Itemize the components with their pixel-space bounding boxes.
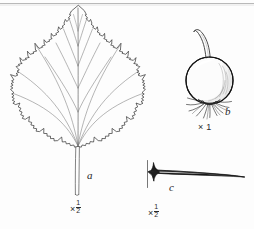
leaf-vein-left-5 bbox=[56, 43, 78, 88]
leaf-petiole-tip bbox=[75, 195, 78, 196]
leaf-vein-right-2 bbox=[78, 72, 138, 146]
leaf-vein-left-7 bbox=[70, 20, 79, 47]
scale-multiplier-b: × bbox=[198, 122, 204, 132]
leaf-vein-right-7 bbox=[78, 20, 87, 47]
leaf-vein-right-1 bbox=[78, 94, 143, 147]
leaf-vein-left-2 bbox=[18, 72, 78, 146]
scale-denominator-a: 2 bbox=[76, 208, 81, 215]
leaf-vein-right-4 bbox=[78, 57, 111, 112]
leaf-vein-left-1 bbox=[14, 94, 79, 147]
figure-leaf bbox=[11, 6, 146, 196]
figure-label-c: c bbox=[169, 182, 174, 193]
leaf-vein-right-8 bbox=[78, 15, 83, 32]
figure-label-b: b bbox=[225, 106, 231, 117]
scale-fraction-c: 12 bbox=[154, 204, 159, 218]
scale-label-b: × 1 bbox=[198, 123, 211, 132]
leaf-vein-right-6 bbox=[78, 29, 93, 66]
leaf-vein-left-6 bbox=[64, 29, 79, 66]
scale-label-a: ×12 bbox=[70, 200, 81, 214]
leaf-vein-right-5 bbox=[78, 43, 100, 88]
fruit-pedicel-left bbox=[194, 30, 206, 58]
fruit-pedicel-right bbox=[194, 30, 210, 58]
leaf-vein-left-8 bbox=[74, 15, 79, 32]
scale-fraction-a: 12 bbox=[76, 200, 81, 214]
figure-thorn bbox=[148, 161, 245, 188]
illustration-canvas bbox=[0, 0, 254, 229]
scale-denominator-c: 2 bbox=[154, 212, 159, 219]
illustration-plate: a b c ×12 × 1 ×12 bbox=[0, 0, 254, 229]
figure-label-a: a bbox=[87, 170, 93, 181]
leaf-vein-left-4 bbox=[45, 57, 78, 112]
scale-label-c: ×12 bbox=[148, 204, 159, 218]
leaf-petiole-right bbox=[79, 147, 80, 195]
scale-numerator-b: 1 bbox=[206, 122, 211, 132]
